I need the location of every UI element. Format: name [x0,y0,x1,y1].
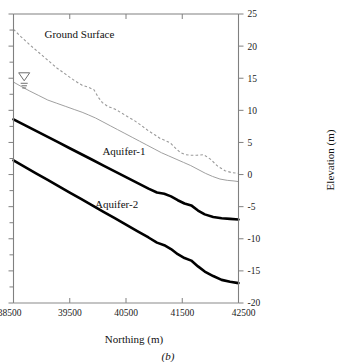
x-axis-title: Northing (m) [105,333,164,346]
y-tick-label: -5 [248,202,256,212]
panel-caption: (b) [162,350,175,362]
y-tick-label: 5 [248,138,253,148]
x-tick-label: 40500 [114,308,138,318]
cross-section-chart: -20-15-10-505101520253850039500405004150… [0,0,346,362]
x-tick-label: 38500 [0,308,22,318]
y-tick-label: 25 [248,9,258,19]
axis-ticks-group [9,14,244,303]
y-tick-label: -15 [248,266,261,276]
y-tick-label: 15 [248,74,258,84]
x-tick-label: 39500 [58,308,82,318]
y-tick-label: -20 [248,298,261,308]
y-tick-label: 20 [248,42,258,52]
labels-group: -20-15-10-505101520253850039500405004150… [0,9,260,318]
y-tick-label: 10 [248,106,258,116]
x-tick-label: 41500 [170,308,194,318]
x-tick-label: 42500 [232,308,256,318]
y-tick-label: -10 [248,234,261,244]
figure-panel-b: -20-15-10-505101520253850039500405004150… [0,0,346,362]
series-water-table [14,82,239,182]
series-aquifer-2 [14,160,239,283]
y-axis-title: Elevation (m) [324,129,337,190]
aquifer-2-label: Aquifer-2 [95,198,138,210]
axes-group [14,14,239,303]
ground-surface-label: Ground Surface [44,28,114,40]
aquifer-1-label: Aquifer-1 [102,145,145,157]
y-tick-label: 0 [248,170,253,180]
water-table-triangle-icon [19,73,30,81]
